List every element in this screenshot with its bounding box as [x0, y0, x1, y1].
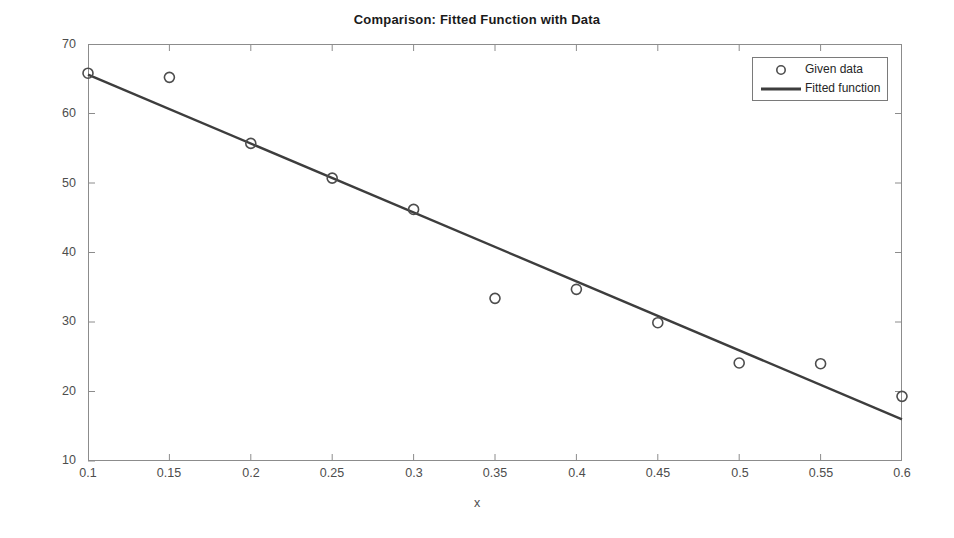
data-point-marker [490, 293, 500, 303]
ytick-label-60: 60 [30, 106, 76, 120]
x-tick-marks [169, 44, 820, 461]
data-point-marker [816, 359, 826, 369]
axes-frame [89, 45, 902, 461]
ytick-label-40: 40 [30, 245, 76, 259]
legend-label-fitted-function: Fitted function [805, 81, 880, 95]
data-point-marker [164, 72, 174, 82]
ytick-label-70: 70 [30, 37, 76, 51]
ytick-label-20: 20 [30, 384, 76, 398]
x-axis-label: x [0, 496, 954, 510]
legend-entry-given-data: Given data [753, 60, 889, 80]
circle-open-icon [759, 60, 803, 80]
legend-box: Given data Fitted function [752, 57, 888, 101]
figure-canvas: Comparison: Fitted Function with Data [0, 0, 954, 538]
xtick-label-0: 0.1 [58, 466, 118, 480]
xtick-label-1: 0.15 [139, 466, 199, 480]
xtick-label-5: 0.35 [465, 466, 525, 480]
xtick-label-7: 0.45 [628, 466, 688, 480]
xtick-label-6: 0.4 [547, 466, 607, 480]
xtick-label-8: 0.5 [710, 466, 770, 480]
legend-entry-fitted-function: Fitted function [753, 79, 889, 99]
data-point-marker [734, 358, 744, 368]
plot-svg [88, 44, 902, 461]
ytick-label-10: 10 [30, 453, 76, 467]
ytick-label-30: 30 [30, 314, 76, 328]
fitted-function-line [88, 75, 902, 420]
data-point-marker [653, 318, 663, 328]
y-tick-marks [88, 45, 902, 462]
xtick-label-10: 0.6 [872, 466, 932, 480]
line-icon [759, 79, 803, 99]
given-data-markers [83, 68, 907, 401]
legend-label-given-data: Given data [805, 62, 863, 76]
xtick-label-3: 0.25 [302, 466, 362, 480]
xtick-label-9: 0.55 [791, 466, 851, 480]
xtick-label-4: 0.3 [384, 466, 444, 480]
xtick-label-2: 0.2 [221, 466, 281, 480]
ytick-label-50: 50 [30, 176, 76, 190]
plot-area [88, 44, 902, 461]
data-point-marker [571, 284, 581, 294]
chart-title: Comparison: Fitted Function with Data [0, 12, 954, 27]
